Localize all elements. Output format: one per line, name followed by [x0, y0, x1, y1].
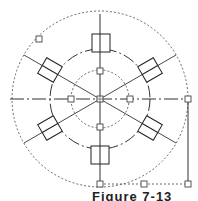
figure-caption: Figure 7-13 [92, 189, 172, 201]
bolt-lower-right [138, 116, 163, 141]
bolt-lower-left [38, 116, 63, 141]
grip-inner-top[interactable] [97, 68, 103, 74]
grip-inner-left[interactable] [68, 96, 74, 102]
bolt-upper-left [38, 58, 63, 83]
bolt-bottom [91, 146, 109, 164]
bolt-circle-drawing [0, 0, 198, 201]
grip-center[interactable] [97, 96, 103, 102]
grip-top-left[interactable] [36, 36, 42, 42]
grip-bottom-right[interactable] [185, 181, 191, 187]
grip-bottom-center[interactable] [97, 181, 103, 187]
grip-inner-bottom[interactable] [97, 124, 103, 130]
bolt-top [92, 34, 110, 52]
bolt-upper-right [138, 58, 163, 83]
grip-inner-right[interactable] [127, 96, 133, 102]
grip-outer-right[interactable] [185, 96, 191, 102]
grip-bottom-mid[interactable] [141, 181, 147, 187]
